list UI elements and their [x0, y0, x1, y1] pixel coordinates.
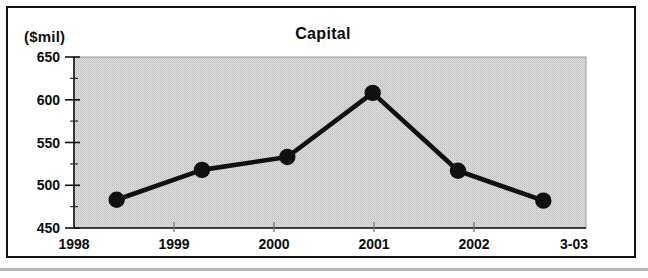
data-point-2002	[450, 163, 466, 179]
x-tick-label-1998: 1998	[42, 236, 106, 252]
chart-figure-frame: Capital ($mil) 650 600 550 500 450 1998 …	[6, 6, 636, 258]
x-tick-label-1999: 1999	[142, 236, 206, 252]
plot-background	[74, 57, 586, 228]
plot-area-wrapper: 650 600 550 500 450 1998 1999 2000 2001 …	[8, 8, 638, 260]
y-tick-label-500: 500	[14, 177, 60, 193]
data-point-1999	[194, 162, 210, 178]
y-tick-label-600: 600	[14, 92, 60, 108]
line-chart-plot	[8, 8, 638, 260]
data-point-1998	[108, 192, 124, 208]
x-tick-label-2001: 2001	[342, 236, 406, 252]
x-tick-label-3-03: 3-03	[542, 236, 606, 252]
y-tick-label-650: 650	[14, 49, 60, 65]
y-tick-label-450: 450	[14, 220, 60, 236]
scan-artifact-edge	[0, 268, 648, 271]
data-point-2001	[364, 85, 380, 101]
x-tick-label-2000: 2000	[242, 236, 306, 252]
scanned-page: Capital ($mil) 650 600 550 500 450 1998 …	[0, 0, 648, 278]
x-tick-label-2002: 2002	[442, 236, 506, 252]
data-point-2000	[279, 149, 295, 165]
data-point-3-03	[535, 192, 551, 208]
y-tick-label-550: 550	[14, 135, 60, 151]
